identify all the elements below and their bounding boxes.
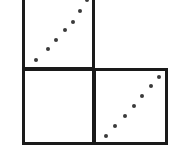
plot-area-bottom-left <box>25 71 92 142</box>
plot-area-top-right <box>95 0 168 70</box>
panel-bottom-right <box>93 68 168 145</box>
plot-area-top-left <box>25 0 92 67</box>
scatter-point <box>85 0 89 2</box>
scatter-point <box>78 9 82 13</box>
scatter-point <box>132 104 136 108</box>
scatter-point <box>54 38 58 42</box>
scatter-point <box>46 47 50 51</box>
scatter-point <box>140 94 144 98</box>
plot-area-bottom-right <box>96 71 165 142</box>
scatter-point <box>123 114 127 118</box>
scatter-point <box>63 28 67 32</box>
panel-top-right <box>95 0 168 70</box>
scatter-point <box>149 84 153 88</box>
scatterplot-matrix-figure <box>0 0 175 151</box>
scatter-point <box>71 20 75 24</box>
panel-bottom-left <box>22 68 95 145</box>
panel-top-left <box>22 0 95 70</box>
scatter-point <box>34 58 38 62</box>
scatter-point <box>104 134 108 138</box>
scatter-point <box>157 75 161 79</box>
scatter-point <box>113 124 117 128</box>
